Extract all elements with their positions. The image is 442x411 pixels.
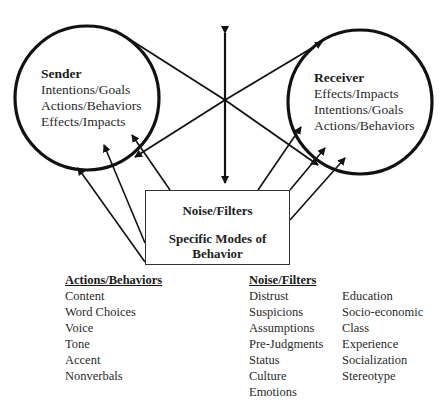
sender-line: Intentions/Goals [41,82,142,98]
receiver-to-sender-arrow [135,100,225,157]
list-item: Pre-Judgments [249,336,323,352]
receiver-top-arrow [225,42,322,100]
sender-to-receiver-arrow [225,100,318,165]
receiver-title: Receiver [314,70,415,86]
box-subtitle: Specific Modes of Behavior [146,231,289,261]
box-to-receiver-arrow-2 [290,148,325,190]
list-item: Status [249,352,323,368]
list-item: Tone [65,336,162,352]
list-item: Socio-economic [342,304,423,320]
list-item: Nonverbals [65,368,162,384]
sender-line: Effects/Impacts [41,114,142,130]
actions-behaviors-header: Actions/Behaviors [65,272,162,288]
noise-filters-header: Noise/Filters [249,272,323,288]
list-item: Suspicions [249,304,323,320]
list-item: Stereotype [342,368,423,384]
box-to-sender-arrow-1 [78,168,145,262]
list-item: Education [342,288,423,304]
receiver-line: Actions/Behaviors [314,118,415,134]
noise-filters-box: Noise/Filters Specific Modes of Behavior [145,190,290,265]
list-item: Assumptions [249,320,323,336]
list-item: Word Choices [65,304,162,320]
list-item: Accent [65,352,162,368]
noise-filters-list-col2: Education Socio-economic Class Experienc… [342,288,423,384]
box-to-receiver-arrow-3 [290,158,345,220]
list-item: Culture [249,368,323,384]
list-item: Distrust [249,288,323,304]
receiver-line: Intentions/Goals [314,102,415,118]
box-to-receiver-arrow-1 [258,127,301,190]
list-item: Voice [65,320,162,336]
sender-label-group: Sender Intentions/Goals Actions/Behavior… [41,66,142,130]
sender-title: Sender [41,66,142,82]
list-item: Emotions [249,384,323,400]
receiver-line: Effects/Impacts [314,86,415,102]
box-title: Noise/Filters [146,203,289,219]
noise-filters-list: Noise/Filters Distrust Suspicions Assump… [249,272,323,400]
receiver-label-group: Receiver Effects/Impacts Intentions/Goal… [314,70,415,134]
actions-behaviors-list: Actions/Behaviors Content Word Choices V… [65,272,162,384]
list-item: Experience [342,336,423,352]
list-item: Class [342,320,423,336]
list-item: Content [65,288,162,304]
list-item: Socialization [342,352,423,368]
box-to-sender-arrow-3 [132,135,170,190]
sender-line: Actions/Behaviors [41,98,142,114]
